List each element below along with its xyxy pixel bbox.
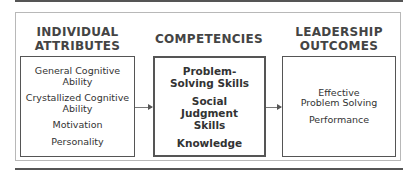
box-individual-attributes: General Cognitive Ability Crystallized C… <box>20 56 135 157</box>
box-leadership-outcomes: Effective Problem Solving Performance <box>282 56 396 157</box>
competency-item: Problem-Solving Skills <box>162 65 257 89</box>
heading-line: COMPETENCIES <box>150 32 268 46</box>
attribute-item: Personality <box>51 137 103 148</box>
attribute-item: Crystallized Cognitive Ability <box>24 93 132 114</box>
heading-leadership-outcomes: LEADERSHIP OUTCOMES <box>280 25 398 53</box>
heading-line: LEADERSHIP <box>280 25 398 39</box>
heading-competencies: COMPETENCIES <box>150 32 268 46</box>
arrow-right-icon <box>266 107 281 108</box>
attribute-item: Motivation <box>52 120 102 131</box>
heading-individual-attributes: INDIVIDUAL ATTRIBUTES <box>15 25 140 53</box>
heading-line: INDIVIDUAL <box>15 25 140 39</box>
heading-line: ATTRIBUTES <box>15 39 140 53</box>
box-competencies: Problem-Solving Skills Social Judgment S… <box>153 56 266 157</box>
competency-item: Social Judgment Skills <box>166 95 254 131</box>
heading-line: OUTCOMES <box>280 39 398 53</box>
outcome-item: Performance <box>309 115 369 126</box>
competency-item: Knowledge <box>177 137 242 149</box>
arrow-right-icon <box>135 107 152 108</box>
top-rule <box>15 0 403 2</box>
outcome-item: Effective Problem Solving <box>299 88 379 109</box>
bottom-rule <box>15 168 403 170</box>
attribute-item: General Cognitive Ability <box>33 66 123 87</box>
